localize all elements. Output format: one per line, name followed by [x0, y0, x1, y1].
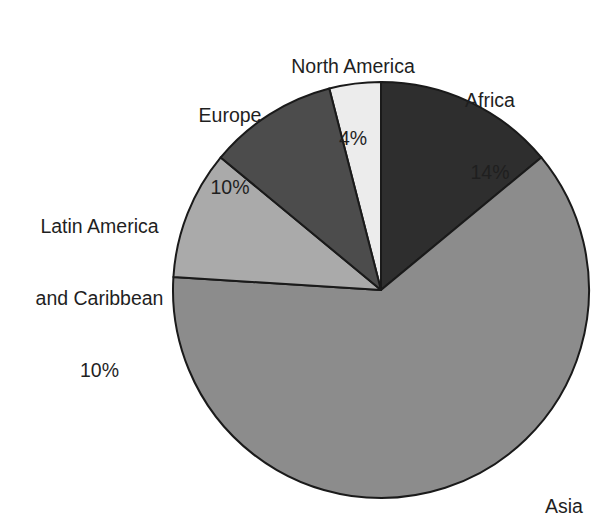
pie-label-latin-america-value: 10%: [12, 358, 187, 382]
pie-label-asia: Asia 62%: [524, 446, 604, 527]
pie-chart: North America 4% Africa 14% Asia 62% Lat…: [0, 0, 611, 527]
pie-label-latin-america: Latin America and Caribbean 10%: [12, 166, 187, 430]
pie-label-north-america-value: 4%: [268, 126, 438, 150]
pie-label-latin-america-name-line2: and Caribbean: [12, 286, 187, 310]
pie-label-north-america: North America 4%: [268, 6, 438, 198]
pie-label-latin-america-name-line1: Latin America: [12, 214, 187, 238]
pie-label-europe-name: Europe: [170, 103, 290, 127]
pie-label-europe: Europe 10%: [170, 55, 290, 247]
pie-label-africa: Africa 14%: [430, 40, 550, 232]
pie-label-asia-name: Asia: [524, 494, 604, 518]
pie-label-africa-value: 14%: [430, 160, 550, 184]
pie-label-north-america-name: North America: [268, 54, 438, 78]
pie-label-europe-value: 10%: [170, 175, 290, 199]
pie-label-africa-name: Africa: [430, 88, 550, 112]
